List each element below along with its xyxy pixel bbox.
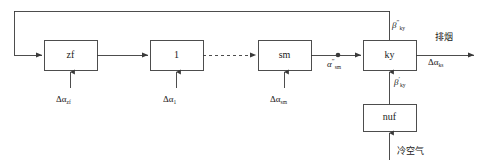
label-beta-ky-double-prime: β″ky [392, 21, 405, 30]
label-delta-alpha-1: Δα1 [163, 95, 176, 104]
label-delta-alpha-sm: Δαsm [270, 95, 287, 104]
block-label-sm: sm [258, 50, 311, 60]
block-label-zf: zf [44, 50, 97, 60]
block-label-nuf: nuf [363, 112, 416, 122]
label-delta-alpha-ks: Δαks [428, 58, 443, 67]
label-beta-ky-prime: β′ky [394, 78, 406, 87]
label-exhaust-gas: 排烟 [435, 33, 453, 42]
label-cold-air: 冷空气 [397, 147, 424, 156]
label-alpha-sm-double-prime: α″sm [327, 60, 341, 69]
diagram-canvas [0, 0, 482, 166]
block-flow-diagram: zf 1 sm ky nuf Δαzf Δα1 Δαsm α″sm β″ky β… [0, 0, 482, 166]
block-label-ky: ky [363, 50, 416, 60]
block-label-1: 1 [150, 50, 203, 60]
label-delta-alpha-zf: Δαzf [56, 95, 71, 104]
junction-dot [336, 53, 341, 58]
